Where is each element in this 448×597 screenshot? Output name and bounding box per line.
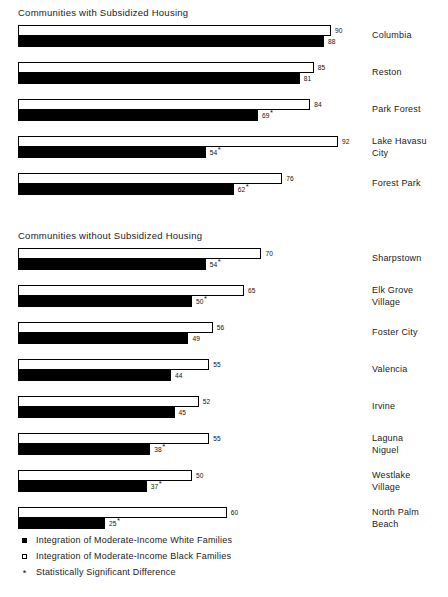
bar-white-families: [18, 147, 206, 158]
bar-white-families: [18, 259, 206, 270]
bar-white-families: [18, 518, 105, 529]
legend-item-1: Integration of Moderate-Income Black Fam…: [18, 549, 348, 563]
community-label: Westlake Village: [372, 470, 410, 493]
community-label: Irvine: [372, 401, 395, 413]
bar-black-families: [18, 99, 310, 110]
bar-value-black-families: 70: [265, 248, 273, 259]
bar-white-families: [18, 444, 150, 455]
bar-value-black-families: 84: [314, 99, 322, 110]
bar-value-white-families: 62*: [238, 184, 249, 195]
bar-value-black-families: 92: [342, 136, 350, 147]
bar-value-white-families: 45: [179, 407, 187, 418]
community-label: Sharpstown: [372, 253, 422, 265]
community-label: Laguna Niguel: [372, 433, 403, 456]
bar-value-black-families: 60: [231, 507, 239, 518]
community-label: Park Forest: [372, 104, 421, 116]
table-row: 5245Irvine: [0, 396, 448, 418]
legend-item-2: *Statistically Significant Difference: [18, 565, 348, 579]
filled-square-icon: [22, 538, 27, 543]
community-label: North Palm Beach: [372, 507, 419, 530]
bar-white-families: [18, 481, 147, 492]
bar-black-families: [18, 285, 244, 296]
legend-label: Integration of Moderate-Income Black Fam…: [36, 549, 231, 563]
bar-white-families: [18, 73, 300, 84]
bar-value-black-families: 55: [213, 359, 221, 370]
chart-container: Communities with Subsidized Housing9088C…: [0, 0, 448, 597]
bar-value-white-families: 54*: [210, 147, 221, 158]
legend-label: Integration of Moderate-Income White Fam…: [36, 533, 232, 547]
bar-value-black-families: 56: [217, 322, 225, 333]
bar-black-families: [18, 173, 282, 184]
table-row: 6025*North Palm Beach: [0, 507, 448, 529]
community-label: Elk Grove Village: [372, 285, 413, 308]
bar-white-families: [18, 184, 234, 195]
bar-value-white-families: 25*: [109, 518, 120, 529]
community-label: Foster City: [372, 327, 418, 339]
bar-black-families: [18, 470, 192, 481]
bar-value-white-families: 50*: [196, 296, 207, 307]
table-row: 7054*Sharpstown: [0, 248, 448, 270]
community-label: Columbia: [372, 30, 412, 42]
bar-value-black-families: 90: [335, 25, 343, 36]
table-row: 5037*Westlake Village: [0, 470, 448, 492]
bar-black-families: [18, 396, 199, 407]
community-label: Valencia: [372, 364, 407, 376]
table-row: 5544Valencia: [0, 359, 448, 381]
bar-value-white-families: 38*: [154, 444, 165, 455]
table-row: 6550*Elk Grove Village: [0, 285, 448, 307]
table-row: 9088Columbia: [0, 25, 448, 47]
bar-white-families: [18, 110, 258, 121]
bar-value-white-families: 81: [304, 73, 312, 84]
bar-black-families: [18, 322, 213, 333]
table-row: 8469*Park Forest: [0, 99, 448, 121]
bar-black-families: [18, 248, 261, 259]
legend-item-0: Integration of Moderate-Income White Fam…: [18, 533, 348, 547]
table-row: 7662*Forest Park: [0, 173, 448, 195]
community-label: Reston: [372, 67, 402, 79]
table-row: 5649Foster City: [0, 322, 448, 344]
bar-black-families: [18, 433, 209, 444]
table-row: 9254*Lake Havasu City: [0, 136, 448, 158]
hollow-square-icon: [22, 554, 27, 559]
bar-white-families: [18, 407, 175, 418]
table-row: 8581Reston: [0, 62, 448, 84]
bar-black-families: [18, 507, 227, 518]
chart-legend: Integration of Moderate-Income White Fam…: [18, 533, 348, 581]
bar-white-families: [18, 370, 171, 381]
bar-value-white-families: 44: [175, 370, 183, 381]
bar-value-white-families: 54*: [210, 259, 221, 270]
bar-value-white-families: 49: [192, 333, 200, 344]
table-row: 5538*Laguna Niguel: [0, 433, 448, 455]
bar-black-families: [18, 62, 314, 73]
community-label: Lake Havasu City: [372, 136, 427, 159]
section-title-0: Communities with Subsidized Housing: [18, 7, 188, 18]
bar-value-black-families: 55: [213, 433, 221, 444]
bar-value-black-families: 85: [318, 62, 326, 73]
community-label: Forest Park: [372, 178, 421, 190]
bar-white-families: [18, 36, 324, 47]
bar-black-families: [18, 359, 209, 370]
bar-white-families: [18, 333, 188, 344]
bar-value-white-families: 88: [328, 36, 336, 47]
bar-black-families: [18, 136, 338, 147]
bar-value-black-families: 76: [286, 173, 294, 184]
bar-value-black-families: 50: [196, 470, 204, 481]
bar-value-black-families: 65: [248, 285, 256, 296]
section-title-1: Communities without Subsidized Housing: [18, 230, 202, 241]
bar-black-families: [18, 25, 331, 36]
bar-value-black-families: 52: [203, 396, 211, 407]
bar-white-families: [18, 296, 192, 307]
bar-value-white-families: 37*: [151, 481, 162, 492]
bar-value-white-families: 69*: [262, 110, 273, 121]
asterisk-icon: *: [21, 565, 28, 579]
legend-label: Statistically Significant Difference: [36, 565, 176, 579]
